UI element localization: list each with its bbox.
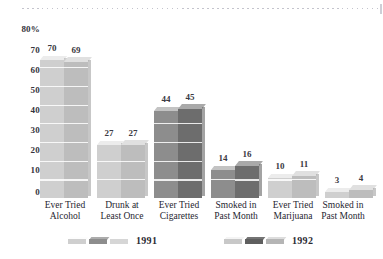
y-tick-40: 40 (14, 106, 40, 115)
bar-1991-ever-tried-alcohol[interactable] (40, 60, 64, 198)
bar-1992-smoked-in-past-month-cigarettes[interactable] (235, 166, 259, 198)
x-label-smoked-in-past-month-marijuana: Smoked in Past Month (306, 200, 380, 222)
bar-group-ever-tried-cigarettes: 44 45 (152, 40, 206, 198)
legend-swatch-1991-c (110, 237, 128, 244)
bar-face (64, 62, 88, 198)
bar-1992-drunk-at-least-once[interactable] (121, 145, 145, 198)
bar-group-smoked-in-past-month-marijuana: 3 4 (323, 40, 377, 198)
page-top-rule-end-mark (380, 4, 382, 14)
bar-1991-ever-tried-marijuana[interactable] (268, 178, 292, 198)
page-top-dotted-rule (22, 8, 380, 9)
bar-side-face (88, 60, 91, 196)
bar-face (121, 145, 145, 198)
bar-side-face (316, 174, 319, 196)
gridlines (211, 170, 235, 198)
bar-face (154, 111, 178, 198)
bar-1991-smoked-in-past-month-cigarettes[interactable] (211, 170, 235, 198)
value-label-1991-4: 10 (268, 162, 292, 171)
y-tick-50: 50 (14, 86, 40, 95)
gridlines (154, 111, 178, 198)
legend-swatch-1991-a (68, 237, 86, 244)
value-label-1992-1: 27 (121, 129, 145, 138)
legend-swatch-face (68, 239, 86, 244)
bar-group-ever-tried-marijuana: 10 11 (266, 40, 320, 198)
value-label-1991-1: 27 (97, 129, 121, 138)
bar-face (178, 109, 202, 198)
gridlines (64, 62, 88, 198)
legend-swatch-1991-b (89, 237, 107, 244)
legend-entry-1991[interactable]: 1991 (68, 235, 157, 246)
bar-side-face (145, 143, 148, 196)
y-axis: 80% 70 60 50 40 30 20 10 0 (14, 25, 40, 203)
value-label-1992-3: 16 (235, 150, 259, 159)
bar-group-smoked-in-past-month-cigarettes: 14 16 (209, 40, 263, 198)
bar-1992-smoked-in-past-month-marijuana[interactable] (349, 190, 373, 198)
legend-swatch-face (110, 239, 128, 244)
bar-face (211, 170, 235, 198)
gridlines (268, 178, 292, 198)
value-label-1992-4: 11 (292, 160, 316, 169)
bar-face (40, 60, 64, 198)
legend-swatch-1992-a (224, 237, 242, 244)
y-tick-30: 30 (14, 126, 40, 135)
bar-group-drunk-at-least-once: 27 27 (95, 40, 149, 198)
bar-face (268, 178, 292, 198)
legend-label-1992: 1992 (292, 235, 313, 246)
legend-swatch-1992-b (245, 237, 263, 244)
legend-label-1991: 1991 (136, 235, 157, 246)
value-label-1992-2: 45 (178, 93, 202, 102)
bar-side-face (259, 164, 262, 196)
chart-legend: 1991 1992 (0, 233, 383, 251)
y-tick-20: 20 (14, 146, 40, 155)
bar-side-face (202, 107, 205, 196)
bar-group-ever-tried-alcohol: 70 69 (38, 40, 92, 198)
legend-entry-1992[interactable]: 1992 (224, 235, 313, 246)
bar-face (235, 166, 259, 198)
legend-swatch-face (245, 239, 263, 244)
y-tick-60: 60 (14, 66, 40, 75)
y-tick-0: 0 (14, 188, 40, 197)
bar-face (349, 190, 373, 198)
legend-swatch-face (89, 239, 107, 244)
value-label-1991-0: 70 (40, 44, 64, 53)
bar-chart: 80% 70 60 50 40 30 20 10 0 70 69 (0, 0, 383, 259)
bar-side-face (373, 188, 376, 196)
y-tick-80: 80% (14, 25, 40, 34)
gridlines (292, 176, 316, 198)
gridlines (349, 190, 373, 198)
value-label-1992-5: 4 (349, 174, 373, 183)
bar-face (325, 192, 349, 198)
bar-1991-ever-tried-cigarettes[interactable] (154, 111, 178, 198)
x-label-line-2: Past Month (306, 211, 380, 222)
value-label-1991-5: 3 (325, 176, 349, 185)
legend-swatch-face (224, 239, 242, 244)
plot-area: 70 69 27 27 (38, 40, 378, 198)
value-label-1991-3: 14 (211, 154, 235, 163)
gridlines (121, 145, 145, 198)
bar-1991-smoked-in-past-month-marijuana[interactable] (325, 192, 349, 198)
y-tick-70: 70 (14, 46, 40, 55)
value-label-1991-2: 44 (154, 95, 178, 104)
gridlines (40, 60, 64, 198)
bar-face (292, 176, 316, 198)
x-label-line-1: Smoked in (306, 200, 380, 211)
legend-swatch-face (266, 239, 284, 244)
bar-1992-ever-tried-cigarettes[interactable] (178, 109, 202, 198)
legend-swatch-1992-c (266, 237, 284, 244)
gridlines (325, 192, 349, 198)
value-label-1992-0: 69 (64, 46, 88, 55)
bar-1992-ever-tried-marijuana[interactable] (292, 176, 316, 198)
bar-1992-ever-tried-alcohol[interactable] (64, 62, 88, 198)
gridlines (235, 166, 259, 198)
gridlines (97, 145, 121, 198)
gridlines (178, 109, 202, 198)
y-tick-10: 10 (14, 166, 40, 175)
bar-face (97, 145, 121, 198)
bar-1991-drunk-at-least-once[interactable] (97, 145, 121, 198)
